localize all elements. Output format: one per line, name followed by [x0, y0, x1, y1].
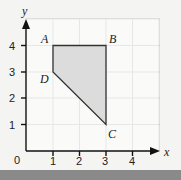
vertex-label-d: D [39, 72, 49, 86]
vertex-label-b: B [109, 32, 117, 46]
y-tick-4: 4 [9, 40, 15, 52]
x-axis-label: x [163, 145, 170, 159]
vertex-label-a: A [40, 32, 49, 46]
x-tick-1: 1 [50, 155, 56, 167]
bottom-band [0, 170, 181, 180]
x-tick-2: 2 [76, 155, 82, 167]
origin-label: 0 [14, 154, 20, 166]
y-axis-label: y [21, 4, 28, 18]
y-tick-2: 2 [9, 92, 15, 104]
y-tick-1: 1 [9, 119, 15, 131]
x-tick-3: 3 [102, 155, 108, 167]
y-tick-3: 3 [9, 66, 15, 78]
x-tick-4: 4 [129, 155, 135, 167]
coordinate-diagram: 0 1 2 3 4 4 3 2 1 x y A B C D [0, 0, 181, 180]
vertex-label-c: C [108, 127, 117, 141]
